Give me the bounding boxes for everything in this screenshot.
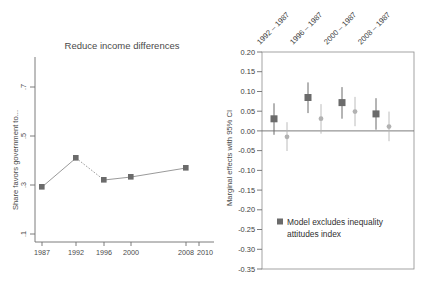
right-chart-legend: Model excludes inequality attitudes inde… xyxy=(277,217,384,239)
left-chart-y-ticks: .7 .5 .3 .1 xyxy=(19,84,35,237)
left-chart-marker-1992 xyxy=(73,155,79,161)
left-chart-y-tick-2: .3 xyxy=(19,182,28,188)
right-chart-estimate-main-3 xyxy=(373,110,380,117)
right-chart-estimate-alt-2 xyxy=(353,109,358,114)
right-chart-svg: Marginal effects with 95% CI 1992 – 1987… xyxy=(215,0,431,283)
right-chart-y-tick-10: -0.30 xyxy=(238,245,255,254)
left-chart-y-tick-1: .5 xyxy=(19,133,28,139)
right-chart-estimate-main-0 xyxy=(271,115,278,122)
left-chart-marker-1996 xyxy=(101,177,107,183)
left-chart-x-ticks: 1987 1992 1996 2000 2008 2010 xyxy=(34,242,213,257)
right-chart-y-tick-0: 0.20 xyxy=(241,48,255,57)
right-chart-y-tick-4: 0.00 xyxy=(241,127,255,136)
right-chart-estimate-alt-1 xyxy=(319,116,324,121)
right-chart-group-1996 xyxy=(305,82,324,133)
right-chart-cat-label-3: 2008 – 1987 xyxy=(356,10,392,46)
right-chart-legend-line-1: Model excludes inequality xyxy=(287,217,384,227)
left-chart-y-tick-0: .7 xyxy=(19,84,28,90)
right-chart-y-axis-label: Marginal effects with 95% CI xyxy=(225,110,234,206)
right-chart-legend-line-2: attitudes index xyxy=(287,229,342,239)
right-chart-cat-label-0: 1992 – 1987 xyxy=(255,10,291,46)
right-chart-y-tick-5: -0.05 xyxy=(238,146,255,155)
right-chart-y-tick-7: -0.15 xyxy=(238,186,255,195)
right-chart-category-labels: 1992 – 1987 1996 – 1987 2000 – 1987 2008… xyxy=(255,10,392,46)
right-chart-y-tick-8: -0.20 xyxy=(238,205,255,214)
right-chart-y-tick-2: 0.10 xyxy=(241,87,255,96)
right-chart-y-tick-1: 0.15 xyxy=(241,67,255,76)
left-chart-x-tick-1992: 1992 xyxy=(68,248,84,257)
left-chart-x-tick-1996: 1996 xyxy=(96,248,112,257)
right-chart-y-tick-6: -0.10 xyxy=(238,166,255,175)
figure-container: Reduce income differences Share favors g… xyxy=(0,0,431,283)
left-chart-marker-1987 xyxy=(39,184,45,190)
right-chart-y-ticks: 0.20 0.15 0.10 0.05 0.00 -0.05 -0.10 -0.… xyxy=(238,48,262,274)
left-chart-marker-2008 xyxy=(183,165,189,171)
right-chart-cat-label-1: 1996 – 1987 xyxy=(288,10,324,46)
left-chart-x-tick-2000: 2000 xyxy=(123,248,139,257)
left-chart-x-tick-2010: 2010 xyxy=(197,248,213,257)
left-chart-series-line xyxy=(42,158,186,187)
right-chart-estimate-alt-3 xyxy=(387,124,392,129)
right-chart-group-2008 xyxy=(373,98,392,141)
right-chart-cat-label-2: 2000 – 1987 xyxy=(322,10,358,46)
right-chart-panel: Marginal effects with 95% CI 1992 – 1987… xyxy=(215,0,431,283)
right-chart-group-2000 xyxy=(339,87,358,126)
right-chart-estimate-main-1 xyxy=(305,94,312,101)
left-chart-panel: Reduce income differences Share favors g… xyxy=(0,0,220,283)
left-chart-title: Reduce income differences xyxy=(65,40,180,51)
left-chart-x-tick-2008: 2008 xyxy=(178,248,194,257)
left-chart-y-tick-3: .1 xyxy=(19,231,28,237)
right-chart-group-1992 xyxy=(271,103,290,151)
left-chart-y-axis-label: Share favors government to... xyxy=(11,110,20,210)
right-chart-estimate-alt-0 xyxy=(285,134,290,139)
left-chart-data-markers xyxy=(39,155,189,190)
right-chart-estimate-main-2 xyxy=(339,99,346,106)
left-chart-svg: Reduce income differences Share favors g… xyxy=(0,0,220,283)
right-chart-y-tick-3: 0.05 xyxy=(241,107,255,116)
right-chart-y-tick-11: -0.35 xyxy=(238,265,255,274)
right-chart-y-tick-9: -0.25 xyxy=(238,225,255,234)
legend-square-marker-icon xyxy=(277,219,283,225)
left-chart-x-tick-1987: 1987 xyxy=(34,248,50,257)
left-chart-marker-2000 xyxy=(128,174,134,180)
